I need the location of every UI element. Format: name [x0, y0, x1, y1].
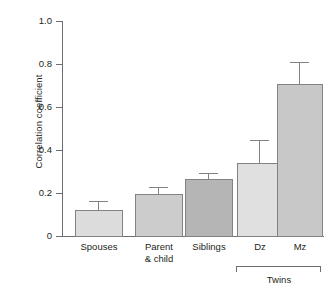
- errorbar-stem-dz: [259, 140, 260, 164]
- y-tick-mark-4: [56, 150, 62, 151]
- errorbar-stem-spouses: [98, 201, 99, 211]
- errorbar-cap-spouses: [89, 201, 108, 202]
- y-tick-label-5: 0.2: [12, 188, 52, 198]
- twins-group-bracket: [236, 266, 321, 272]
- bar-siblings: [185, 179, 233, 237]
- errorbar-cap-mz: [290, 62, 309, 63]
- errorbar-stem-parent-child: [158, 187, 159, 195]
- bar-chart-figure: Correlation coefficient 1.0 0.8 0.6 0.4 …: [0, 0, 334, 296]
- errorbar-cap-siblings: [199, 173, 218, 174]
- x-label-mz: Mz: [265, 241, 334, 253]
- bar-parent-child: [135, 194, 183, 237]
- errorbar-stem-mz: [299, 62, 300, 85]
- y-tick-mark-3: [56, 107, 62, 108]
- bar-spouses: [75, 210, 123, 237]
- bar-mz: [277, 84, 323, 237]
- y-tick-mark-1: [56, 21, 62, 22]
- y-tick-label-6: 0: [12, 231, 52, 241]
- y-tick-mark-5: [56, 193, 62, 194]
- y-axis-line: [62, 21, 63, 237]
- twins-group-label: Twins: [238, 274, 320, 285]
- y-tick-label-2: 0.8: [12, 59, 52, 69]
- errorbar-cap-dz: [250, 140, 269, 141]
- y-tick-mark-2: [56, 64, 62, 65]
- y-tick-label-4: 0.4: [12, 145, 52, 155]
- errorbar-stem-siblings: [208, 173, 209, 180]
- y-tick-label-3: 0.6: [12, 102, 52, 112]
- errorbar-cap-parent-child: [149, 187, 168, 188]
- y-tick-label-1: 1.0: [12, 16, 52, 26]
